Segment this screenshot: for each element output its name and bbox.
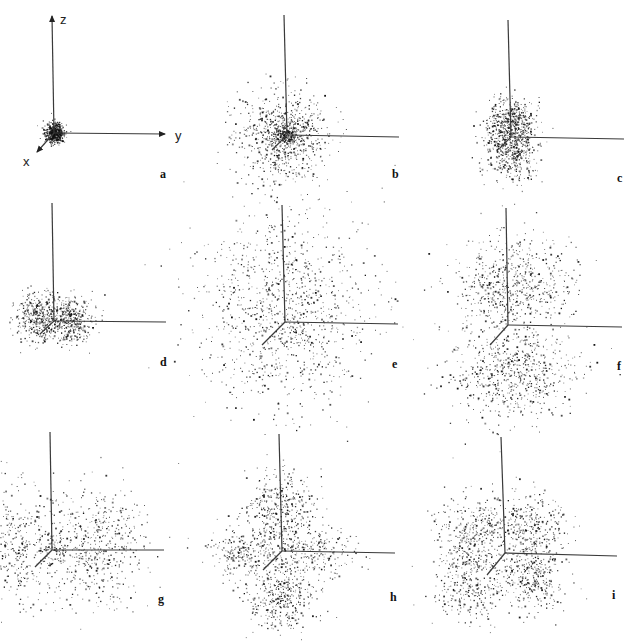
y-axis <box>287 135 399 137</box>
panel-label: f <box>617 359 622 373</box>
panel-a: zyxa <box>23 12 182 181</box>
y-axis <box>505 553 617 556</box>
panel-label: i <box>612 588 616 602</box>
point-cloud <box>217 74 347 209</box>
y-axis-label: y <box>175 128 182 143</box>
panel-label: a <box>160 167 166 181</box>
panel-f: f <box>424 204 622 459</box>
x-axis <box>490 325 508 345</box>
point-cloud <box>187 454 370 640</box>
x-axis <box>263 551 282 570</box>
y-axis <box>54 133 165 134</box>
z-axis <box>506 208 508 325</box>
z-axis <box>52 16 54 133</box>
panel-d: d <box>9 203 167 369</box>
z-axis-label: z <box>60 12 67 27</box>
x-axis <box>35 550 52 567</box>
y-axis <box>285 322 398 324</box>
panel-label: g <box>158 592 164 606</box>
panels-group: zyxabcdefghi <box>0 12 624 640</box>
panel-e: e <box>145 163 440 464</box>
axes <box>40 203 166 334</box>
panel-b: b <box>217 15 399 209</box>
z-axis <box>501 437 505 553</box>
point-cloud <box>0 457 170 630</box>
z-axis <box>282 205 285 322</box>
point-cloud <box>424 204 621 459</box>
panel-label: d <box>160 355 167 369</box>
panel-i: i <box>412 437 617 633</box>
panel-label: h <box>390 590 397 604</box>
panel-label: e <box>392 357 398 371</box>
axes <box>272 15 399 150</box>
z-axis <box>284 15 287 135</box>
z-axis <box>50 432 52 550</box>
panel-label: c <box>617 171 623 185</box>
axes <box>490 208 622 345</box>
y-axis <box>282 551 395 553</box>
scatter-figure: zyxabcdefghi <box>0 0 632 642</box>
panel-label: b <box>392 167 399 181</box>
panel-h: h <box>187 434 397 640</box>
axes <box>262 205 398 345</box>
axes <box>487 437 617 575</box>
panel-c: c <box>472 20 624 213</box>
y-axis <box>54 321 166 322</box>
y-axis <box>508 325 622 327</box>
point-cloud <box>145 163 440 464</box>
panel-g: g <box>0 432 170 630</box>
point-cloud <box>472 87 554 214</box>
x-axis-label: x <box>23 154 30 169</box>
point-cloud <box>9 285 106 353</box>
